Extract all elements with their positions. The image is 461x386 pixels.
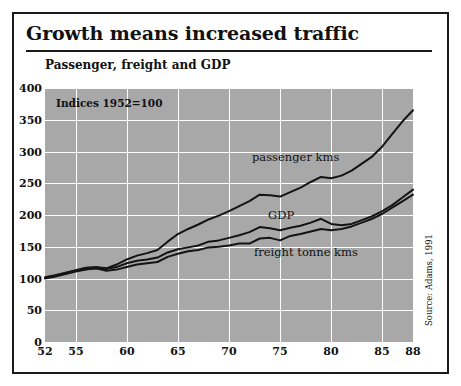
plot-area (45, 88, 413, 342)
x-tick-label: 85 (367, 346, 397, 357)
x-tick-label: 80 (316, 346, 346, 357)
series-label-passenger-kms: passenger kms (252, 150, 339, 164)
chart-subtitle: Passenger, freight and GDP (45, 58, 230, 72)
y-tick-label: 400 (6, 83, 42, 94)
x-tick-label: 52 (30, 346, 60, 357)
series-label-gdp: GDP (268, 208, 294, 222)
series-line-freight-tonne-kms (45, 195, 413, 279)
x-tick-label: 55 (61, 346, 91, 357)
y-tick-label: 350 (6, 115, 42, 126)
figure-root: Growth means increased traffic Passenger… (0, 0, 461, 386)
y-tick-label: 300 (6, 147, 42, 158)
y-tick-label: 100 (6, 274, 42, 285)
y-tick-label: 50 (6, 305, 42, 316)
y-tick-label: 250 (6, 178, 42, 189)
page-title: Growth means increased traffic (26, 22, 359, 44)
y-tick-label: 200 (6, 210, 42, 221)
series-label-freight-tonne-kms: freight tonne kms (254, 245, 358, 259)
series-line-gdp (45, 190, 413, 278)
chart-lines (45, 88, 413, 342)
x-tick-label: 75 (265, 346, 295, 357)
y-tick-label: 150 (6, 242, 42, 253)
x-tick-label: 70 (214, 346, 244, 357)
y-axis: 050100150200250300350400 (2, 88, 42, 342)
source-note-text: Source: Adams, 1991 (424, 234, 434, 326)
title-divider (26, 50, 432, 52)
x-tick-label: 88 (398, 346, 428, 357)
x-tick-label: 65 (163, 346, 193, 357)
x-tick-label: 60 (112, 346, 142, 357)
x-axis: 525560657075808588 (45, 346, 413, 364)
indices-note: Indices 1952=100 (56, 97, 162, 109)
source-note: Source: Adams, 1991 (424, 142, 434, 234)
